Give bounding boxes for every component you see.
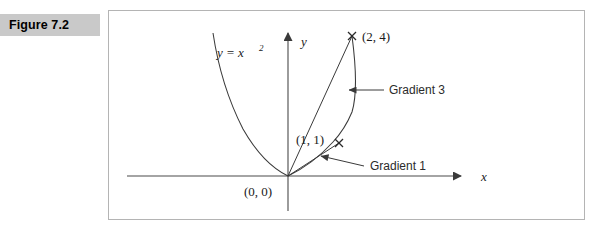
parabola-gradient-diagram: x y y = x 2 bbox=[109, 11, 586, 221]
curve-equation-exponent: 2 bbox=[259, 43, 264, 53]
axes-group bbox=[127, 33, 461, 211]
point-label-origin: (0, 0) bbox=[244, 184, 272, 199]
gradient-three-label: Gradient 3 bbox=[389, 83, 445, 97]
y-axis-label: y bbox=[299, 34, 307, 49]
chord-lines-group bbox=[288, 36, 352, 176]
figure-frame: x y y = x 2 bbox=[108, 10, 585, 220]
figure-tag: Figure 7.2 bbox=[0, 14, 100, 36]
point-marker-one-one bbox=[335, 139, 343, 147]
x-axis-label: x bbox=[480, 169, 487, 184]
gradient-one-label: Gradient 1 bbox=[370, 159, 426, 173]
curve-equation-label: y = x bbox=[215, 45, 244, 60]
figure-tag-label: Figure 7.2 bbox=[0, 18, 69, 32]
point-label-two-four: (2, 4) bbox=[362, 29, 390, 44]
annotation-gradient-three: Gradient 3 bbox=[349, 83, 445, 97]
gradient-one-leader-line bbox=[321, 156, 364, 166]
point-label-one-one: (1, 1) bbox=[296, 132, 324, 147]
annotation-gradient-one: Gradient 1 bbox=[321, 156, 426, 173]
